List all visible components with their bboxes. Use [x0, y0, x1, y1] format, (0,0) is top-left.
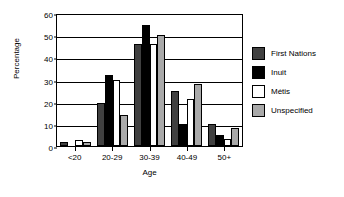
- bar: [134, 44, 142, 146]
- y-tick-label: 20: [44, 99, 57, 108]
- bar: [120, 115, 128, 146]
- legend-item: Métis: [252, 82, 316, 101]
- bar: [60, 142, 68, 146]
- legend-swatch: [252, 66, 265, 79]
- legend-label: Inuit: [271, 68, 286, 77]
- bar: [97, 103, 105, 146]
- legend-swatch: [252, 85, 265, 98]
- x-tick: 40-49: [168, 147, 205, 162]
- bar: [231, 128, 239, 146]
- legend-label: Unspecified: [271, 106, 313, 115]
- legend-item: First Nations: [252, 44, 316, 63]
- bar: [224, 139, 232, 146]
- bar: [105, 75, 113, 146]
- bar: [179, 124, 187, 146]
- bar-group: [168, 15, 205, 146]
- x-axis-title: Age: [56, 168, 243, 177]
- bar: [187, 99, 195, 146]
- plot-area: 0102030405060: [56, 14, 243, 147]
- legend: First NationsInuitMétisUnspecified: [252, 44, 316, 120]
- bar-group: [94, 15, 131, 146]
- bar-group: [131, 15, 168, 146]
- x-axis-ticks: <2020-2930-3940-4950+: [56, 147, 243, 162]
- bar: [216, 135, 224, 146]
- bar: [142, 25, 150, 146]
- y-tick-label: 50: [44, 33, 57, 42]
- x-tick-mark: [75, 147, 76, 151]
- legend-item: Inuit: [252, 63, 316, 82]
- x-tick: <20: [56, 147, 93, 162]
- bar: [75, 140, 83, 146]
- y-tick-label: 40: [44, 55, 57, 64]
- legend-label: Métis: [271, 87, 290, 96]
- y-tick-label: 60: [44, 11, 57, 20]
- bar: [194, 84, 202, 146]
- bar: [208, 124, 216, 146]
- bar: [150, 44, 158, 146]
- x-tick-mark: [187, 147, 188, 151]
- bar: [157, 35, 165, 146]
- bar: [83, 142, 91, 146]
- y-axis-title: Percentage: [12, 19, 21, 99]
- x-tick: 50+: [206, 147, 243, 162]
- bar-group: [57, 15, 94, 146]
- x-tick: 30-39: [131, 147, 168, 162]
- legend-swatch: [252, 47, 265, 60]
- x-tick-mark: [224, 147, 225, 151]
- bar-chart: Percentage 0102030405060 <2020-2930-3940…: [0, 0, 344, 197]
- bar-groups: [57, 15, 242, 146]
- x-tick-mark: [150, 147, 151, 151]
- legend-swatch: [252, 104, 265, 117]
- bar: [113, 80, 121, 147]
- y-tick-label: 10: [44, 121, 57, 130]
- x-tick: 20-29: [93, 147, 130, 162]
- bar-group: [205, 15, 242, 146]
- bar: [171, 91, 179, 146]
- legend-label: First Nations: [271, 49, 316, 58]
- x-tick-mark: [112, 147, 113, 151]
- legend-item: Unspecified: [252, 101, 316, 120]
- y-tick-label: 30: [44, 77, 57, 86]
